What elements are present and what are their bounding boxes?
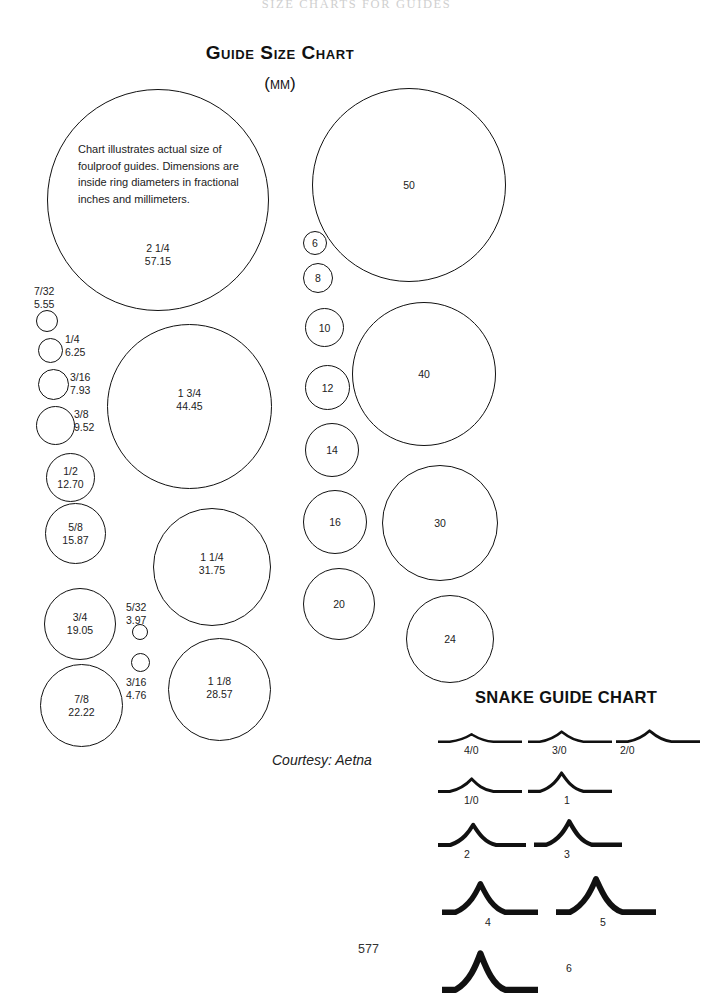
snake-1	[528, 753, 612, 794]
snake-2	[438, 806, 526, 848]
page-subtitle: (mm)	[0, 74, 560, 94]
ring-1-4-label: 1/46.25	[65, 333, 85, 359]
snake-3-0	[528, 710, 612, 744]
fraction-value: 1 1/4	[154, 551, 270, 564]
chart-description: Chart illustrates actual size of foulpro…	[78, 141, 250, 207]
snake-1-0-label: 1/0	[464, 794, 479, 806]
ring-24: 24	[406, 595, 494, 683]
ring-12: 12	[305, 365, 350, 410]
ring-3-16-label: 3/167.93	[70, 371, 90, 397]
ring-7-8: 7/822.22	[40, 664, 123, 747]
ring-1-1-4: 1 1/431.75	[153, 508, 271, 626]
millimeter-value: 4.76	[126, 689, 146, 702]
millimeter-value: 57.15	[48, 255, 268, 268]
millimeter-value: 19.05	[45, 624, 115, 637]
millimeter-value: 7.93	[70, 384, 90, 397]
fraction-value: 7/8	[41, 693, 122, 706]
millimeter-value: 9.52	[74, 421, 94, 434]
snake-4	[442, 866, 538, 916]
snake-5	[556, 862, 656, 916]
running-head: SIZE CHARTS FOR GUIDES	[0, 0, 713, 8]
ring-3-8-label: 3/89.52	[74, 408, 94, 434]
ring-30: 30	[382, 465, 498, 581]
ring-1-1-4-label: 1 1/431.75	[154, 551, 270, 577]
ring-1-3-4-label: 1 3/444.45	[108, 387, 271, 413]
fraction-value: 1 1/8	[169, 675, 270, 688]
fraction-value: 1/4	[65, 333, 85, 346]
ring-50: 50	[312, 88, 506, 282]
courtesy-credit: Courtesy: Aetna	[272, 752, 372, 768]
ring-16: 16	[303, 490, 367, 554]
ring-8-label: 8	[304, 272, 332, 285]
ring-1-1-8: 1 1/828.57	[168, 638, 271, 741]
ring-5-8: 5/815.87	[45, 503, 106, 564]
fraction-value: 3/16	[70, 371, 90, 384]
snake-6	[442, 938, 538, 994]
ring-5-8-label: 5/815.87	[46, 521, 105, 547]
millimeter-value: 44.45	[108, 400, 271, 413]
snake-2-label: 2	[464, 848, 470, 860]
guide-size-chart-page: SIZE CHARTS FOR GUIDES Guide Size Chart …	[0, 0, 713, 1008]
ring-30-label: 30	[383, 517, 497, 530]
ring-10: 10	[305, 308, 344, 347]
ring-1-2: 1/212.70	[46, 453, 95, 502]
ring-14-label: 14	[306, 444, 358, 457]
page-title: Guide Size Chart	[0, 42, 560, 64]
snake-3	[534, 803, 622, 848]
ring-12-label: 12	[306, 382, 349, 395]
ring-6-label: 6	[304, 237, 326, 250]
ring-40-label: 40	[353, 368, 495, 381]
fraction-value: 5/8	[46, 521, 105, 534]
millimeter-value: 15.87	[46, 534, 105, 547]
ring-3-4-label: 3/419.05	[45, 611, 115, 637]
ring-50-label: 50	[313, 179, 505, 192]
fraction-value: 1/2	[47, 465, 94, 478]
ring-2-1-4-label: 2 1/457.15	[48, 242, 268, 268]
millimeter-value: 12.70	[47, 478, 94, 491]
millimeter-value: 22.22	[41, 706, 122, 719]
snake-1-0	[438, 758, 522, 794]
ring-1-4	[38, 338, 63, 363]
snake-4-0-label: 4/0	[464, 744, 479, 756]
ring-3-16b-label: 3/164.76	[126, 676, 146, 702]
ring-7-8-label: 7/822.22	[41, 693, 122, 719]
fraction-value: 3/16	[126, 676, 146, 689]
ring-1-2-label: 1/212.70	[47, 465, 94, 491]
ring-5-32-label: 5/323.97	[126, 601, 146, 627]
ring-7-32-label: 7/325.55	[34, 285, 54, 311]
ring-3-16	[38, 369, 69, 400]
snake-2-0-label: 2/0	[620, 744, 635, 756]
ring-3-4: 3/419.05	[44, 588, 116, 660]
ring-20-label: 20	[304, 598, 374, 611]
ring-14: 14	[305, 423, 359, 477]
page-number: 577	[358, 942, 379, 956]
fraction-value: 3/4	[45, 611, 115, 624]
ring-1-1-8-label: 1 1/828.57	[169, 675, 270, 701]
ring-3-16b	[131, 653, 150, 672]
fraction-value: 3/8	[74, 408, 94, 421]
fraction-value: 7/32	[34, 285, 54, 298]
snake-guide-chart-title: SNAKE GUIDE CHART	[475, 688, 657, 707]
snake-3-label: 3	[564, 848, 570, 860]
ring-16-label: 16	[304, 516, 366, 529]
fraction-value: 1 3/4	[108, 387, 271, 400]
snake-4-0	[438, 712, 522, 744]
ring-7-32	[36, 310, 58, 332]
snake-4-label: 4	[485, 916, 491, 928]
ring-20: 20	[303, 568, 375, 640]
snake-2-0	[616, 709, 700, 744]
ring-1-3-4: 1 3/444.45	[107, 324, 272, 489]
fraction-value: 5/32	[126, 601, 146, 614]
snake-6-label: 6	[566, 962, 572, 974]
millimeter-value: 31.75	[154, 564, 270, 577]
snake-5-label: 5	[600, 916, 606, 928]
ring-10-label: 10	[306, 322, 343, 335]
ring-40: 40	[352, 302, 496, 446]
ring-8: 8	[303, 263, 333, 293]
millimeter-value: 3.97	[126, 614, 146, 627]
millimeter-value: 5.55	[34, 298, 54, 311]
millimeter-value: 28.57	[169, 688, 270, 701]
ring-6: 6	[303, 231, 327, 255]
ring-3-8	[36, 406, 75, 445]
fraction-value: 2 1/4	[48, 242, 268, 255]
